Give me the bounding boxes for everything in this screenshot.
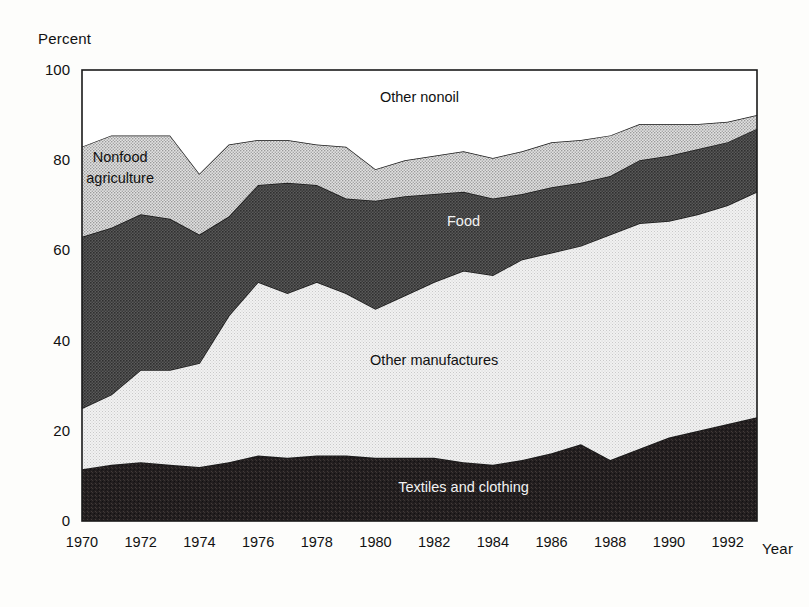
series-label: Textiles and clothing (398, 479, 529, 495)
series-label: Food (447, 213, 480, 229)
series-label: Other manufactures (370, 352, 498, 368)
x-tick-label: 1982 (411, 534, 457, 550)
plot-area: Other nonoilNonfoodagricultureFoodOther … (0, 0, 809, 607)
x-tick-label: 1980 (352, 534, 398, 550)
series-label: agriculture (86, 170, 154, 186)
y-tick-label: 40 (30, 332, 70, 349)
x-tick-label: 1990 (646, 534, 692, 550)
x-tick-label: 1984 (470, 534, 516, 550)
x-tick-label: 1970 (59, 534, 105, 550)
x-tick-label: 1972 (118, 534, 164, 550)
x-tick-label: 1988 (587, 534, 633, 550)
stacked-area-chart: Percent Year 020406080100 19701972197419… (0, 0, 809, 607)
y-tick-label: 80 (30, 151, 70, 168)
x-tick-label: 1978 (294, 534, 340, 550)
y-axis-title: Percent (38, 30, 91, 47)
series-label: Other nonoil (380, 89, 459, 105)
x-axis-title: Year (762, 540, 793, 557)
series-label: Nonfood (93, 149, 148, 165)
x-tick-label: 1976 (235, 534, 281, 550)
x-tick-label: 1974 (176, 534, 222, 550)
y-tick-label: 60 (30, 241, 70, 258)
y-tick-label: 100 (30, 61, 70, 78)
x-tick-label: 1992 (705, 534, 751, 550)
y-tick-label: 0 (30, 512, 70, 529)
series-areas (82, 70, 757, 521)
y-tick-label: 20 (30, 422, 70, 439)
x-tick-label: 1986 (529, 534, 575, 550)
